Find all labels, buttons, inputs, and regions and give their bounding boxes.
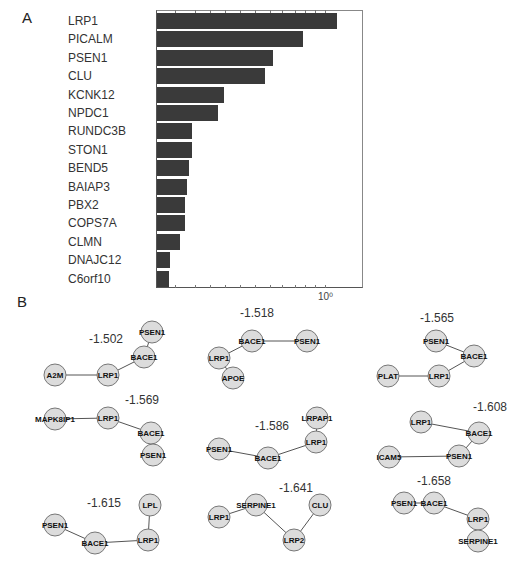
x-tick bbox=[305, 10, 306, 13]
node-label: SERPINE1 bbox=[458, 537, 498, 546]
x-tick bbox=[255, 285, 256, 288]
network-graph: A2MLRP1BACE1PSEN1-1.502 bbox=[44, 321, 166, 386]
bar bbox=[157, 252, 170, 268]
node-label: LRP1 bbox=[138, 536, 159, 545]
x-tick bbox=[175, 285, 176, 288]
x-tick bbox=[255, 10, 256, 13]
node-label: LRPAP1 bbox=[302, 414, 334, 423]
network-score: -1.615 bbox=[87, 496, 121, 510]
x-tick bbox=[195, 285, 196, 288]
x-tick bbox=[305, 285, 306, 288]
bar bbox=[157, 68, 265, 84]
x-tick bbox=[295, 285, 296, 288]
x-tick bbox=[225, 10, 226, 13]
bar-row: PICALM bbox=[0, 30, 508, 48]
network-graph: MAPK8IP1LRP1BACE1PSEN1-1.569 bbox=[35, 393, 167, 466]
x-tick bbox=[240, 285, 241, 288]
x-tick bbox=[282, 285, 283, 288]
bar bbox=[157, 160, 189, 176]
node-label: PSEN1 bbox=[42, 521, 69, 530]
network-graph: PSEN1BACE1LRP1LRPAP1-1.586 bbox=[206, 407, 333, 469]
bar-row: LRP1 bbox=[0, 12, 508, 30]
node-label: PSEN1 bbox=[294, 337, 321, 346]
node-label: LRP1 bbox=[468, 515, 489, 524]
node-label: PSEN1 bbox=[446, 452, 473, 461]
x-tick bbox=[282, 10, 283, 13]
x-tick bbox=[225, 285, 226, 288]
node-label: PSEN1 bbox=[139, 328, 166, 337]
x-tick bbox=[270, 10, 271, 13]
panel-a-bar-chart: A LRP1PICALMPSEN1CLUKCNK12NPDC1RUNDC3BST… bbox=[0, 0, 508, 300]
x-tick bbox=[325, 285, 326, 288]
node-label: PSEN1 bbox=[140, 451, 167, 460]
bar-label: C6orf10 bbox=[68, 270, 188, 288]
x-tick bbox=[295, 10, 296, 13]
panel-b-networks: A2MLRP1BACE1PSEN1-1.502BACE1PSEN1LRP1APO… bbox=[0, 290, 508, 566]
network-score: -1.608 bbox=[473, 400, 507, 414]
x-tick bbox=[325, 10, 326, 13]
bar-row: PSEN1 bbox=[0, 49, 508, 67]
node-label: SERPINE1 bbox=[236, 501, 276, 510]
network-score: -1.502 bbox=[89, 332, 123, 346]
node-label: BACE1 bbox=[137, 429, 165, 438]
network-graph: PSEN1BACE1LRP1SERPINE1-1.658 bbox=[391, 474, 498, 552]
bar-row: STON1 bbox=[0, 141, 508, 159]
network-graph: LRP1BACE1PSEN1ICAM5-1.608 bbox=[377, 400, 508, 468]
node-label: BACE1 bbox=[460, 352, 488, 361]
network-score: -1.641 bbox=[279, 481, 313, 495]
node-label: PSEN1 bbox=[206, 445, 233, 454]
bar bbox=[157, 142, 192, 158]
bar bbox=[157, 50, 273, 66]
node-label: LRP1 bbox=[209, 513, 230, 522]
network-graph: BACE1PSEN1LRP1APOE-1.518 bbox=[208, 306, 321, 389]
node-label: BACE1 bbox=[130, 353, 158, 362]
x-tick bbox=[210, 10, 211, 13]
node-label: LRP1 bbox=[98, 371, 119, 380]
x-tick bbox=[315, 10, 316, 13]
bar-row: PBX2 bbox=[0, 196, 508, 214]
node-label: LRP1 bbox=[98, 414, 119, 423]
node-label: MAPK8IP1 bbox=[35, 415, 76, 424]
network-score: -1.518 bbox=[240, 306, 274, 320]
node-label: PLAT bbox=[378, 372, 398, 381]
bar-row: NPDC1 bbox=[0, 104, 508, 122]
bar-row: C6orf10 bbox=[0, 270, 508, 288]
node-label: BACE1 bbox=[420, 499, 448, 508]
bar-label: DNAJC12 bbox=[68, 251, 188, 269]
x-tick bbox=[195, 10, 196, 13]
node-label: LRP2 bbox=[284, 536, 305, 545]
network-graph: LRP1SERPINE1LRP2CLU-1.641 bbox=[208, 481, 331, 551]
bar bbox=[157, 87, 224, 103]
network-score: -1.586 bbox=[255, 419, 289, 433]
network-score: -1.565 bbox=[420, 311, 454, 325]
node-label: BACE1 bbox=[81, 539, 109, 548]
bar bbox=[157, 123, 192, 139]
bar bbox=[157, 179, 187, 195]
x-tick bbox=[240, 10, 241, 13]
bar bbox=[157, 234, 180, 250]
network-score: -1.569 bbox=[125, 393, 159, 407]
node-label: LRP1 bbox=[411, 418, 432, 427]
x-tick bbox=[315, 285, 316, 288]
bar bbox=[157, 215, 185, 231]
x-tick bbox=[270, 285, 271, 288]
network-graph: PSEN1BACE1LRP1LPL-1.615 bbox=[42, 494, 161, 554]
node-label: PSEN1 bbox=[391, 499, 418, 508]
bar bbox=[157, 197, 185, 213]
node-label: LRP1 bbox=[306, 438, 327, 447]
node-label: LPL bbox=[142, 501, 157, 510]
bar bbox=[157, 271, 169, 287]
bar bbox=[157, 105, 218, 121]
node-label: PSEN1 bbox=[423, 337, 450, 346]
node-label: CLU bbox=[312, 501, 329, 510]
bar-row: KCNK12 bbox=[0, 86, 508, 104]
bar-row: BAIAP3 bbox=[0, 178, 508, 196]
bar-row: CLU bbox=[0, 67, 508, 85]
node-label: APOE bbox=[222, 374, 245, 383]
bar-row: RUNDC3B bbox=[0, 122, 508, 140]
node-label: BACE1 bbox=[254, 454, 282, 463]
x-tick bbox=[175, 10, 176, 13]
bar bbox=[157, 13, 337, 29]
node-label: LRP1 bbox=[209, 354, 230, 363]
bar-row: DNAJC12 bbox=[0, 251, 508, 269]
